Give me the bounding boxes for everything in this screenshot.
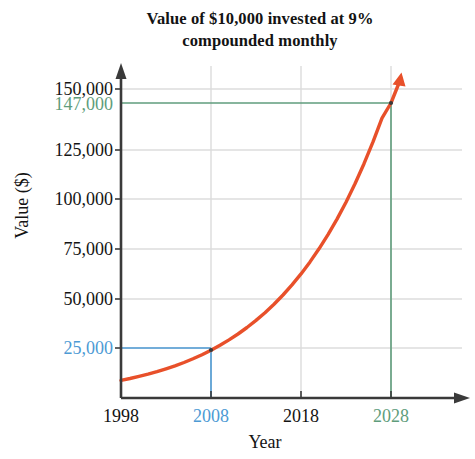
y-tick-label-50000: 50,000 bbox=[18, 289, 113, 310]
x-tick-label-1998: 1998 bbox=[81, 406, 161, 427]
plot-area bbox=[0, 0, 475, 459]
x-axis bbox=[121, 393, 470, 404]
value-curve bbox=[121, 73, 406, 381]
horizontal-gridlines bbox=[121, 89, 462, 348]
x-tick-label-2028: 2028 bbox=[351, 406, 431, 427]
x-axis-title: Year bbox=[150, 432, 380, 453]
y-tick-label-147000: 147,000 bbox=[18, 94, 113, 115]
chart-figure: Value of $10,000 invested at 9% compound… bbox=[0, 0, 475, 459]
y-axis-title: Value ($) bbox=[12, 156, 33, 256]
x-tick-label-2018: 2018 bbox=[261, 406, 341, 427]
green-reference-lines bbox=[121, 103, 391, 398]
x-tick-label-2008: 2008 bbox=[171, 406, 251, 427]
y-tick-label-25000: 25,000 bbox=[18, 338, 113, 359]
